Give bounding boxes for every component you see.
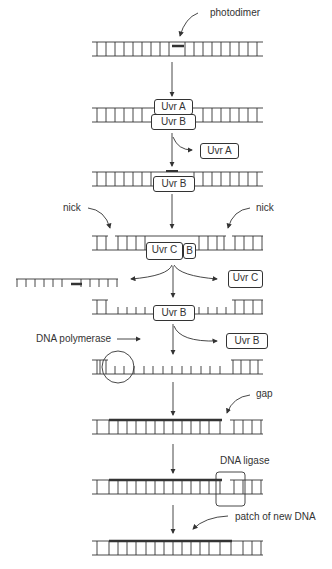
diagram-graphics (0, 0, 332, 569)
dna-strand-8 (92, 472, 263, 506)
uvrc-bound-box: Uvr C (146, 242, 183, 260)
gap-label: gap (256, 389, 273, 399)
photodimer-label: photodimer (210, 8, 260, 18)
dna-strand-7 (92, 420, 263, 434)
dna-strand-1 (92, 42, 263, 56)
uvrb-bound-box-1: Uvr B (151, 114, 196, 130)
b-small-box: B (183, 243, 196, 259)
uvrc-released-box: Uvr C (228, 270, 263, 288)
nick-right-label: nick (256, 203, 274, 213)
dna-strand-6 (92, 351, 263, 383)
excised-oligonucleotide (16, 279, 118, 287)
nucleotide-excision-repair-diagram: photodimer nick nick DNA polymerase gap … (0, 0, 332, 569)
dna-strand-9 (92, 541, 263, 555)
dna-polymerase-label: DNA polymerase (36, 334, 111, 344)
uvra-released-box: Uvr A (200, 143, 239, 159)
nick-left-label: nick (63, 203, 81, 213)
uvrb-bound-box-2: Uvr B (153, 176, 195, 192)
uvrb-released-box: Uvr B (226, 333, 268, 349)
dna-ligase-label: DNA ligase (220, 456, 269, 466)
patch-label: patch of new DNA (235, 512, 316, 522)
uvrb-bound-box-3: Uvr B (153, 305, 195, 321)
uvra-bound-box: Uvr A (154, 99, 193, 115)
